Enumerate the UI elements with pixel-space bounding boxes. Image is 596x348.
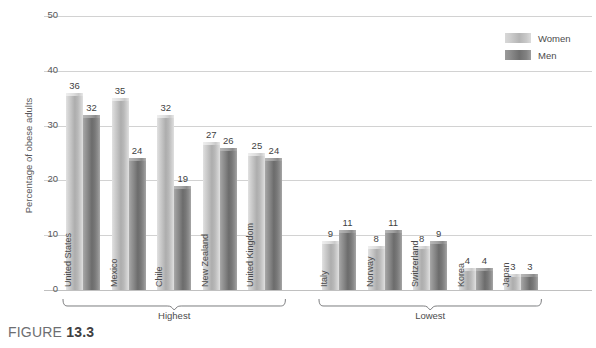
bar-top-cap	[66, 93, 83, 96]
category-label-mexico: Mexico	[109, 258, 119, 287]
bar-value-women-united-states: 36	[62, 80, 87, 91]
bar-men-new-zealand	[220, 148, 237, 290]
y-tick-label-40: 40	[36, 65, 58, 75]
legend-swatch-icon-men	[505, 50, 531, 60]
bar-top-cap	[112, 98, 129, 101]
bar-value-men-united-states: 32	[79, 102, 104, 113]
bar-men-japan	[521, 274, 538, 290]
legend-item-men: Men	[505, 48, 591, 62]
bar-top-cap	[339, 230, 356, 233]
bar-men-chile	[174, 186, 191, 290]
y-tick-label-20: 20	[36, 174, 58, 184]
category-label-japan: Japan	[501, 262, 511, 287]
bar-value-men-united-kingdom: 24	[261, 145, 286, 156]
legend: Women Men	[505, 31, 591, 65]
bar-value-men-switzerland: 9	[426, 228, 451, 239]
bar-top-cap	[476, 268, 493, 271]
bar-men-mexico	[129, 158, 146, 290]
gridline-50	[44, 16, 592, 17]
bar-men-korea	[476, 268, 493, 290]
bar-value-men-norway: 11	[381, 217, 406, 228]
bar-value-women-mexico: 35	[108, 85, 133, 96]
category-label-korea: Korea	[456, 263, 466, 287]
bar-men-norway	[385, 230, 402, 290]
bar-men-switzerland	[430, 241, 447, 290]
y-tick-label-30: 30	[36, 120, 58, 130]
category-label-switzerland: Switzerland	[410, 240, 420, 287]
group-label-lowest: Lowest	[318, 310, 542, 321]
bar-top-cap	[322, 241, 339, 244]
legend-label-men: Men	[538, 50, 556, 61]
plot-area: 01020304050 Percentage of obese adults W…	[0, 0, 596, 300]
category-label-united-states: United States	[63, 233, 73, 287]
group-bracket-lowest	[318, 297, 542, 309]
bar-top-cap	[368, 246, 385, 249]
bar-value-men-new-zealand: 26	[216, 135, 241, 146]
bar-value-men-japan: 3	[517, 261, 542, 272]
category-label-chile: Chile	[154, 266, 164, 287]
figure-caption-number: 13.3	[66, 324, 94, 340]
bar-women-chile	[157, 115, 174, 290]
category-label-italy: Italy	[319, 270, 329, 287]
group-bracket-highest	[62, 297, 286, 309]
bar-value-women-chile: 32	[153, 102, 178, 113]
y-tick-label-10: 10	[36, 229, 58, 239]
y-tick-label-50: 50	[36, 10, 58, 20]
figure-container: 01020304050 Percentage of obese adults W…	[0, 0, 596, 348]
legend-label-women: Women	[538, 33, 571, 44]
category-label-united-kingdom: United Kingdom	[245, 223, 255, 287]
bar-top-cap	[265, 158, 282, 161]
bar-top-cap	[385, 230, 402, 233]
bar-top-cap	[157, 115, 174, 118]
y-axis-title: Percentage of obese adults	[23, 71, 34, 241]
legend-item-women: Women	[505, 31, 591, 45]
bar-value-men-korea: 4	[472, 255, 497, 266]
bar-top-cap	[220, 148, 237, 151]
bar-value-men-italy: 11	[335, 217, 360, 228]
bar-men-united-states	[83, 115, 100, 290]
bar-top-cap	[521, 274, 538, 277]
legend-swatch-icon-women	[505, 33, 531, 43]
y-tick-label-0: 0	[36, 284, 58, 294]
bar-men-united-kingdom	[265, 158, 282, 290]
figure-caption: FIGURE 13.3	[8, 324, 94, 340]
bar-top-cap	[430, 241, 447, 244]
figure-caption-prefix: FIGURE	[8, 324, 62, 340]
bar-top-cap	[129, 158, 146, 161]
bar-men-italy	[339, 230, 356, 290]
group-label-highest: Highest	[62, 310, 286, 321]
bar-value-men-mexico: 24	[125, 145, 150, 156]
bar-top-cap	[83, 115, 100, 118]
category-label-norway: Norway	[365, 256, 375, 287]
category-label-new-zealand: New Zealand	[200, 234, 210, 287]
gridline-0	[44, 290, 592, 291]
bar-top-cap	[174, 186, 191, 189]
bar-value-men-chile: 19	[170, 173, 195, 184]
gridline-40	[44, 71, 592, 72]
